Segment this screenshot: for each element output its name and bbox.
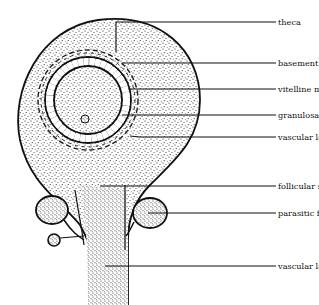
- oocyte: [54, 66, 122, 134]
- label-granulosa: granulosa: [278, 110, 319, 120]
- stalk-column: [80, 185, 128, 305]
- label-theca: theca: [278, 17, 301, 27]
- label-vitelline-membrane: vitelline membrane: [278, 84, 319, 94]
- label-follicular-stalk: follicular stalk: [278, 181, 319, 191]
- label-basement-membrane: basement membrane: [278, 58, 319, 68]
- parasitic-follicle-small: [48, 234, 60, 246]
- label-vascular-layer-follicle-wall: vascular layer of follicle wall: [278, 132, 319, 142]
- label-vascular-layer-stalk: vascular layer of stalk: [278, 261, 319, 271]
- follicle-diagram: [0, 0, 319, 305]
- parasitic-follicle-left: [36, 196, 68, 224]
- germinal-vesicle: [81, 115, 89, 123]
- label-parasitic-follicle: parasitic follicle: [278, 208, 319, 218]
